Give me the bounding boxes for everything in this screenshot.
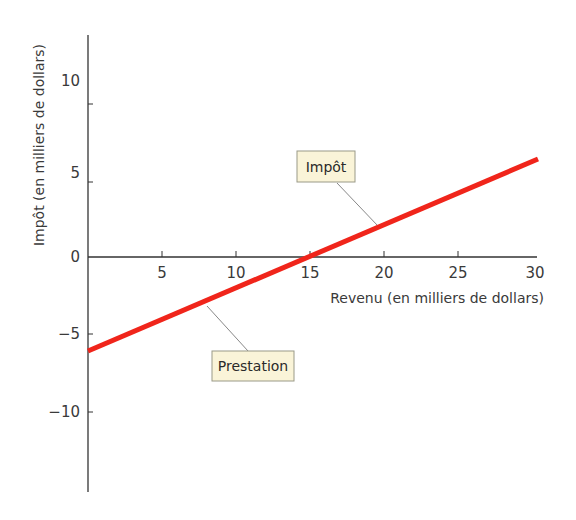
x-tick-label: 5	[157, 264, 167, 282]
x-tick-label: 20	[374, 264, 393, 282]
y-tick-label: −10	[48, 403, 80, 421]
x-tick-label: 15	[300, 264, 319, 282]
impot-label: Impôt	[306, 159, 347, 175]
x-tick-label: 25	[448, 264, 467, 282]
y-tick-label: 0	[70, 248, 80, 266]
y-tick-label: −5	[58, 325, 80, 343]
impot-callout: Impôt	[297, 151, 355, 182]
tax-benefit-line	[88, 159, 538, 351]
chart: 5 10 15 20 25 30 10 5 0 −5 −10 Revenu (e…	[0, 0, 576, 520]
x-tick-label: 30	[525, 264, 544, 282]
x-tick-label: 10	[226, 264, 245, 282]
prestation-leader-line	[207, 306, 248, 351]
prestation-label: Prestation	[218, 358, 288, 374]
impot-leader-line	[337, 183, 378, 226]
y-tick-label: 5	[70, 164, 80, 182]
y-axis-title: Impôt (en milliers de dollars)	[31, 44, 47, 246]
x-tick-labels: 5 10 15 20 25 30	[157, 264, 544, 282]
y-tick-labels: 10 5 0 −5 −10	[48, 72, 80, 421]
prestation-callout: Prestation	[212, 351, 294, 381]
x-axis-title: Revenu (en milliers de dollars)	[330, 290, 544, 306]
y-tick-label: 10	[61, 72, 80, 90]
y-ticks	[88, 104, 93, 412]
